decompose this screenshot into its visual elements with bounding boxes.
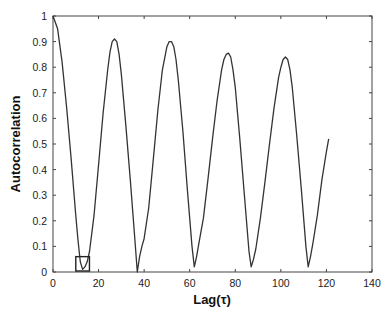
x-tick-label: 40 (138, 277, 150, 289)
x-tick-label: 60 (184, 277, 196, 289)
y-tick-label: 0.1 (32, 240, 47, 252)
y-tick-label: 0.9 (32, 36, 47, 48)
y-tick-label: 0.2 (32, 215, 47, 227)
x-tick-label: 80 (229, 277, 241, 289)
x-tick-label: 0 (50, 277, 56, 289)
x-axis-title: Lag(τ) (193, 292, 231, 307)
y-tick-label: 0.3 (32, 189, 47, 201)
y-tick-label: 0.8 (32, 61, 47, 73)
x-tick-label: 100 (272, 277, 290, 289)
x-tick-label: 20 (93, 277, 105, 289)
y-tick-label: 0.4 (32, 164, 47, 176)
y-tick-label: 0.5 (32, 138, 47, 150)
y-tick-label: 0.7 (32, 87, 47, 99)
autocorrelation-chart: 00.10.20.30.40.50.60.70.80.91 0204060801… (0, 0, 392, 324)
y-tick-label: 0.6 (32, 112, 47, 124)
y-tick-label: 1 (41, 10, 47, 22)
y-axis-title: Autocorrelation (8, 96, 23, 193)
x-tick-label: 120 (318, 277, 336, 289)
y-tick-label: 0 (41, 266, 47, 278)
x-tick-label: 140 (363, 277, 381, 289)
